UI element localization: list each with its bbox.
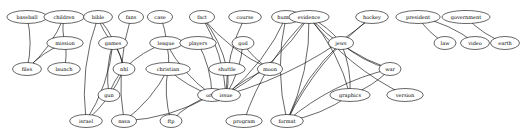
node-version[interactable]: version [387, 89, 424, 102]
node-issue[interactable]: issue [212, 89, 241, 102]
node-format[interactable]: format [271, 115, 304, 128]
node-mission[interactable]: mission [47, 37, 84, 50]
node-ftp[interactable]: ftp [160, 115, 182, 128]
node-label: course [237, 14, 254, 20]
edge-jews-format [287, 43, 341, 121]
edge-evidence-version [309, 17, 405, 95]
node-fact[interactable]: fact [189, 11, 214, 24]
node-launch[interactable]: launch [48, 63, 81, 76]
edge-games-israel [86, 43, 113, 121]
node-label: israel [79, 118, 93, 124]
node-label: nhl [120, 66, 128, 72]
node-course[interactable]: course [229, 11, 262, 24]
node-moon[interactable]: moon [257, 63, 282, 76]
node-label: government [451, 14, 482, 21]
node-government[interactable]: government [442, 11, 490, 24]
node-label: games [105, 40, 122, 47]
node-label: bible [92, 14, 105, 20]
node-label: president [406, 14, 430, 21]
node-israel[interactable]: israel [70, 115, 103, 128]
node-label: evidence [298, 14, 321, 20]
node-label: program [233, 118, 255, 125]
node-label: version [395, 92, 415, 98]
node-files[interactable]: files [13, 63, 42, 76]
node-fans[interactable]: fans [118, 11, 143, 24]
node-label: video [467, 40, 482, 46]
edge-course-issue [226, 17, 245, 95]
node-label: files [22, 66, 33, 72]
node-evidence[interactable]: evidence [289, 11, 329, 24]
edge-fact-issue [202, 17, 226, 95]
edge-christian-nasa [124, 69, 168, 121]
node-label: nasa [118, 118, 130, 124]
node-label: players [189, 40, 208, 47]
edge-bible-israel [84, 17, 98, 121]
node-label: children [54, 14, 76, 20]
node-label: hockey [363, 14, 381, 21]
node-hockey[interactable]: hockey [356, 11, 389, 24]
node-label: case [154, 14, 165, 20]
node-god[interactable]: god [232, 37, 254, 50]
node-label: baseball [16, 14, 37, 20]
node-label: issue [220, 92, 233, 98]
node-law[interactable]: law [434, 37, 456, 50]
node-jews[interactable]: jews [328, 37, 353, 50]
node-label: law [441, 40, 451, 46]
node-games[interactable]: games [99, 37, 128, 50]
node-label: fact [197, 14, 207, 20]
node-layer: baseballchildrenmissionfileslaunchbiblef… [7, 11, 520, 128]
node-label: god [238, 40, 248, 47]
edge-evidence-issue [226, 17, 309, 95]
node-earth[interactable]: earth [491, 37, 520, 50]
node-label: format [279, 118, 296, 124]
node-league[interactable]: league [150, 37, 183, 50]
node-label: fans [126, 14, 137, 20]
node-gun[interactable]: gun [98, 89, 120, 102]
node-label: earth [498, 40, 512, 46]
edge-evidence-graphics [309, 17, 350, 95]
node-shuttle[interactable]: shuttle [209, 63, 246, 76]
node-label: jews [334, 40, 347, 47]
node-label: mission [55, 40, 75, 46]
edge-hockey-format [287, 17, 372, 121]
node-label: war [385, 66, 395, 72]
node-label: ftp [167, 118, 174, 125]
edge-jews-graphics [341, 43, 350, 95]
node-war[interactable]: war [379, 63, 401, 76]
node-baseball[interactable]: baseball [7, 11, 47, 24]
node-players[interactable]: players [180, 37, 217, 50]
node-nasa[interactable]: nasa [111, 115, 136, 128]
node-label: league [158, 40, 175, 47]
node-program[interactable]: program [226, 115, 263, 128]
node-video[interactable]: video [461, 37, 490, 50]
graph-canvas: baseballchildrenmissionfileslaunchbiblef… [0, 0, 529, 138]
node-children[interactable]: children [44, 11, 84, 24]
node-label: christian [157, 66, 180, 72]
edge-baseball-files [27, 17, 30, 69]
node-president[interactable]: president [396, 11, 440, 24]
node-nhl[interactable]: nhl [113, 63, 135, 76]
node-graphics[interactable]: graphics [330, 89, 370, 102]
node-label: launch [55, 66, 73, 72]
node-label: moon [263, 66, 278, 72]
node-bible[interactable]: bible [84, 11, 113, 24]
node-case[interactable]: case [147, 11, 172, 24]
node-label: shuttle [218, 66, 236, 72]
node-label: graphics [339, 92, 361, 99]
node-label: gun [104, 92, 114, 99]
node-christian[interactable]: christian [146, 63, 190, 76]
